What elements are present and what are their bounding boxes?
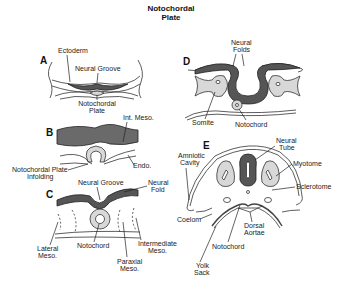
label-int-meso: Int. Meso. xyxy=(123,114,154,121)
label-neural-fold-1: Neural xyxy=(148,179,169,186)
label-notochordal-plate-1: Notochordal xyxy=(78,100,116,107)
panel-a-left-border xyxy=(48,62,52,98)
panel-e-dorsal-aorta-right xyxy=(265,198,272,203)
label-neural-tube-1: Neural xyxy=(276,137,297,144)
panel-e-letter: E xyxy=(203,140,210,151)
label-coelom: Coelom xyxy=(177,216,201,223)
label-neural-folds-1: Neural xyxy=(231,39,252,46)
label-intermediate-meso-2: Meso. xyxy=(148,247,167,254)
panel-e: E Amniotic Cavity Neural Tube Myotome Sc… xyxy=(177,137,332,276)
label-infolding-2: Infolding xyxy=(27,173,54,181)
panel-b-notochordal-infolding xyxy=(86,146,106,162)
panel-a-letter: A xyxy=(40,55,47,66)
label-endo: Endo. xyxy=(133,162,151,169)
panel-c-letter: C xyxy=(46,189,53,200)
label-somite: Somite xyxy=(192,119,214,126)
label-notochord-e: Notochord xyxy=(212,243,244,250)
label-myotome: Myotome xyxy=(293,160,322,168)
panel-e-notochord xyxy=(247,191,250,194)
label-sclerotome: Sclerotome xyxy=(296,183,332,190)
label-lateral-meso-2: Meso. xyxy=(38,252,57,259)
panel-a-neural-plate xyxy=(68,84,128,90)
panel-d-letter: D xyxy=(183,56,190,67)
panel-a-right-border xyxy=(138,60,142,98)
label-dorsal-aortae-2: Aortae xyxy=(244,229,265,236)
title-line-2: Plate xyxy=(161,13,181,22)
panel-d-somite-right xyxy=(268,76,300,97)
panel-d-somite-left xyxy=(195,76,228,97)
label-neural-groove-a: Neural Groove xyxy=(75,65,121,72)
label-neural-fold-2: Fold xyxy=(151,186,165,193)
label-yolk-sack-1: Yolk xyxy=(196,262,209,269)
label-infolding-1: Notochordal Plate xyxy=(12,166,68,173)
label-paraxial-meso-2: Meso. xyxy=(120,265,139,272)
notochord-diagram: Notochordal Plate A Ectoderm Neural Groo… xyxy=(0,0,343,287)
title-line-1: Notochordal xyxy=(147,4,194,13)
label-neural-folds-2: Folds xyxy=(233,46,251,53)
panel-b-letter: B xyxy=(46,127,53,138)
panel-c: C Neural Groove Neural Fold Lateral Meso… xyxy=(37,179,177,272)
label-yolk-sack-2: Sack xyxy=(194,269,210,276)
label-paraxial-meso-1: Paraxial xyxy=(117,258,143,265)
label-amniotic-cavity-2: Cavity xyxy=(180,159,200,167)
panel-d: D Neural Folds Somite Notochord xyxy=(183,39,303,128)
label-lateral-meso-1: Lateral xyxy=(37,245,59,252)
panel-a: A Ectoderm Neural Groove Notochordal Pla… xyxy=(40,47,142,114)
panel-e-dorsal-aorta-left xyxy=(224,198,231,203)
label-amniotic-cavity-1: Amniotic xyxy=(178,152,205,159)
panel-e-sclerotome-right xyxy=(262,161,280,187)
label-notochord-c: Notochord xyxy=(77,242,109,249)
label-ectoderm: Ectoderm xyxy=(58,47,88,54)
panel-a-notochordal-plate xyxy=(90,91,104,96)
label-intermediate-meso-1: Intermediate xyxy=(138,240,177,247)
label-notochord-d: Notochord xyxy=(235,121,267,128)
label-dorsal-aortae-1: Dorsal xyxy=(244,222,265,229)
label-notochordal-plate-2: Plate xyxy=(89,107,105,114)
label-neural-tube-2: Tube xyxy=(279,144,295,151)
label-neural-groove-c: Neural Groove xyxy=(78,179,124,186)
panel-b: B Int. Meso. Endo. Notochordal Plate Inf… xyxy=(12,114,154,181)
